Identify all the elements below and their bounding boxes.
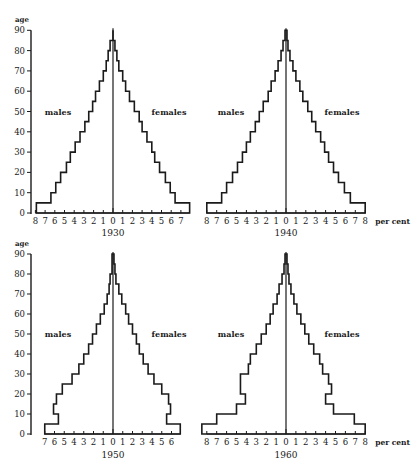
x-tick-label: 4 <box>149 437 154 447</box>
x-tick-label: 4 <box>71 437 76 447</box>
y-tick-label: 70 <box>14 66 25 76</box>
x-tick-label: 5 <box>62 216 67 226</box>
x-tick-label: 2 <box>263 437 268 447</box>
y-tick-label: 20 <box>14 389 25 399</box>
pyramid-1960: 87654321012345678malesfemalesper cent196… <box>202 252 411 460</box>
x-tick-label: 3 <box>254 437 259 447</box>
y-axis-title: age <box>15 15 29 24</box>
x-tick-label: 6 <box>343 437 348 447</box>
y-tick-label: 0 <box>20 429 25 439</box>
y-tick-label: 40 <box>14 349 25 359</box>
x-tick-label: 0 <box>283 216 288 226</box>
population-pyramids-figure: 87654321012345670102030405060708090agema… <box>0 0 415 467</box>
x-unit-label: per cent <box>375 438 410 447</box>
x-tick-label: 7 <box>214 437 219 447</box>
y-tick-label: 50 <box>14 107 25 117</box>
year-label: 1930 <box>102 228 125 238</box>
x-tick-label: 2 <box>303 437 308 447</box>
males-label: males <box>45 107 72 117</box>
x-tick-label: 1 <box>120 216 125 226</box>
pyramid-outline <box>202 254 365 434</box>
y-tick-label: 40 <box>14 127 25 137</box>
x-tick-label: 5 <box>159 437 164 447</box>
x-tick-label: 5 <box>234 216 239 226</box>
x-tick-label: 0 <box>110 216 115 226</box>
pyramid-1950: 765432101234560102030405060708090agemale… <box>14 239 187 460</box>
x-tick-label: 6 <box>343 216 348 226</box>
x-tick-label: 5 <box>62 437 67 447</box>
x-tick-label: 3 <box>81 216 86 226</box>
x-tick-label: 6 <box>169 437 174 447</box>
y-axis-title: age <box>15 239 29 248</box>
x-tick-label: 7 <box>42 437 47 447</box>
x-tick-label: 8 <box>362 216 367 226</box>
y-tick-label: 20 <box>14 167 25 177</box>
x-tick-label: 8 <box>33 216 38 226</box>
x-unit-label: per cent <box>375 217 410 226</box>
x-tick-label: 7 <box>353 437 358 447</box>
x-tick-label: 3 <box>139 216 144 226</box>
x-tick-label: 8 <box>362 437 367 447</box>
y-tick-label: 30 <box>14 147 25 157</box>
year-label: 1960 <box>275 450 298 460</box>
y-tick-label: 10 <box>14 409 25 419</box>
x-tick-label: 6 <box>224 216 229 226</box>
x-tick-label: 0 <box>283 437 288 447</box>
x-tick-label: 6 <box>52 437 57 447</box>
x-tick-label: 8 <box>204 437 209 447</box>
x-tick-label: 8 <box>204 216 209 226</box>
females-label: females <box>152 329 187 339</box>
y-tick-label: 30 <box>14 369 25 379</box>
y-tick-label: 60 <box>14 309 25 319</box>
x-tick-label: 6 <box>52 216 57 226</box>
x-tick-label: 3 <box>81 437 86 447</box>
x-tick-label: 6 <box>168 216 173 226</box>
x-tick-label: 1 <box>101 216 106 226</box>
x-tick-label: 7 <box>42 216 47 226</box>
x-tick-label: 2 <box>91 437 96 447</box>
x-tick-label: 6 <box>224 437 229 447</box>
x-tick-label: 7 <box>353 216 358 226</box>
x-tick-label: 7 <box>178 216 183 226</box>
x-tick-label: 4 <box>323 437 328 447</box>
x-tick-label: 4 <box>71 216 76 226</box>
males-label: males <box>218 329 245 339</box>
y-tick-label: 0 <box>20 208 25 218</box>
x-tick-label: 4 <box>323 216 328 226</box>
pyramid-1940: 87654321012345678malesfemalesper cent194… <box>204 28 410 238</box>
year-label: 1940 <box>275 228 298 238</box>
x-tick-label: 5 <box>159 216 164 226</box>
x-tick-label: 0 <box>110 437 115 447</box>
x-tick-label: 3 <box>313 216 318 226</box>
females-label: females <box>152 107 187 117</box>
x-tick-label: 2 <box>263 216 268 226</box>
x-tick-label: 7 <box>214 216 219 226</box>
males-label: males <box>45 329 72 339</box>
x-tick-label: 5 <box>333 216 338 226</box>
males-label: males <box>218 107 245 117</box>
x-tick-label: 1 <box>293 437 298 447</box>
x-tick-label: 2 <box>130 216 135 226</box>
pyramid-1930: 87654321012345670102030405060708090agema… <box>14 15 189 238</box>
x-tick-label: 1 <box>273 437 278 447</box>
x-tick-label: 4 <box>244 437 249 447</box>
x-tick-label: 2 <box>130 437 135 447</box>
x-tick-label: 1 <box>120 437 125 447</box>
x-tick-label: 3 <box>140 437 145 447</box>
x-tick-label: 5 <box>333 437 338 447</box>
x-tick-label: 1 <box>273 216 278 226</box>
y-tick-label: 80 <box>14 46 25 56</box>
y-tick-label: 90 <box>14 25 25 35</box>
females-label: females <box>325 107 360 117</box>
x-tick-label: 1 <box>293 216 298 226</box>
x-tick-label: 3 <box>254 216 259 226</box>
x-tick-label: 5 <box>234 437 239 447</box>
y-tick-label: 80 <box>14 269 25 279</box>
x-tick-label: 1 <box>101 437 106 447</box>
x-tick-label: 4 <box>244 216 249 226</box>
x-tick-label: 2 <box>303 216 308 226</box>
year-label: 1950 <box>102 450 125 460</box>
females-label: females <box>325 329 360 339</box>
y-tick-label: 50 <box>14 329 25 339</box>
y-tick-label: 90 <box>14 249 25 259</box>
